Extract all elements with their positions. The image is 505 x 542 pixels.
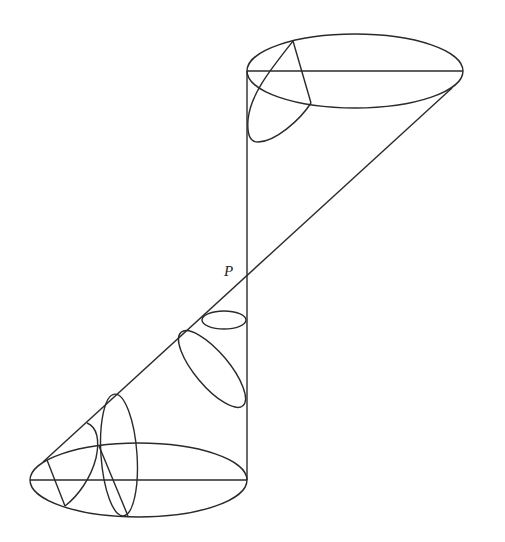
bottom-chord-left bbox=[47, 460, 65, 506]
top-chord-line bbox=[293, 41, 311, 103]
small-horizontal-section bbox=[202, 311, 246, 329]
bottom-small-loop-section bbox=[65, 423, 98, 506]
point-p-label: P bbox=[223, 263, 233, 279]
bottom-chord-right bbox=[99, 446, 128, 516]
top-tilted-section bbox=[248, 41, 311, 142]
double-cone-diagram: P bbox=[0, 0, 505, 542]
